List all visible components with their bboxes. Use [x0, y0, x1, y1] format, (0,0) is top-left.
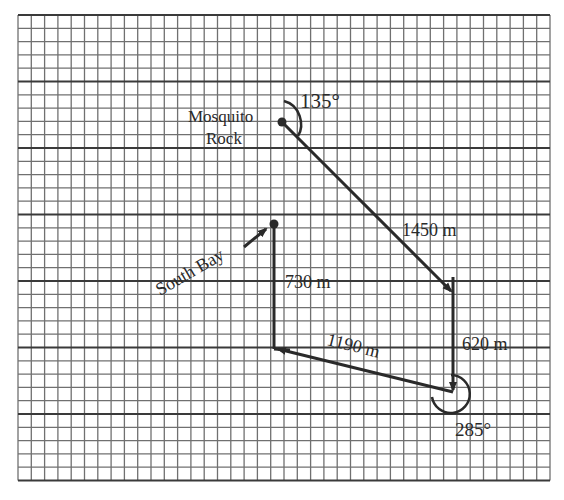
label-mosquito: Mosquito	[188, 107, 253, 126]
label-730m: 730 m	[285, 272, 331, 292]
label-rock: Rock	[206, 129, 242, 148]
grid-paper	[18, 15, 550, 481]
label-620m: 620 m	[462, 334, 508, 354]
map-diagram: Mosquito Rock 135° 1450 m 620 m 730 m 28…	[0, 0, 564, 500]
south-bay-point	[270, 220, 279, 229]
label-south-bay: South Bay	[152, 244, 227, 299]
arrow-to-south-bay	[244, 229, 266, 247]
vector-730m-base	[274, 349, 290, 350]
label-285: 285°	[455, 419, 491, 440]
mosquito-rock-point	[278, 118, 287, 127]
angle-arc-285	[432, 375, 470, 413]
label-angle-135: 135°	[300, 89, 340, 113]
label-1450m: 1450 m	[402, 220, 457, 240]
